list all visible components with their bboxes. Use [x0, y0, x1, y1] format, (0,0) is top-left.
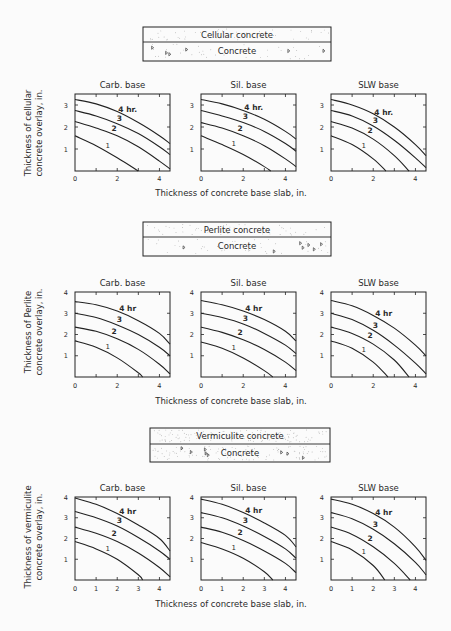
x-tick-label: 0 [199, 382, 203, 390]
curve-label: 3 [117, 516, 122, 525]
fire-rating-curve [75, 327, 170, 374]
y-tick-label: 2 [190, 124, 194, 132]
x-tick-label: 4 [157, 175, 161, 183]
y-tick-label: 1 [190, 556, 194, 564]
curve-label: 3 [243, 314, 248, 323]
curve-label: 2 [367, 534, 372, 543]
legend-bottom-layer-label: Concrete [218, 241, 256, 251]
x-tick-label: 2 [115, 175, 119, 183]
x-tick-label: 0 [329, 175, 333, 183]
y-tick-label: 4 [190, 289, 194, 297]
y-tick-label: 3 [320, 102, 324, 110]
x-tick-label: 0 [73, 585, 77, 593]
y-axis-label: Thickness of cellularconcrete overlay, i… [23, 89, 44, 177]
y-axis-label-line1: Thickness of vermiculite [23, 485, 33, 589]
y-tick-label: 2 [64, 124, 68, 132]
chart-panel: SLW base02412341234 hr [320, 278, 426, 390]
curve-label: 1 [231, 344, 235, 352]
material-legend: Perlite concreteConcrete [143, 222, 331, 256]
y-tick-label: 1 [64, 352, 68, 360]
y-tick-label: 3 [64, 310, 68, 318]
x-tick-label: 4 [157, 585, 161, 593]
curve-label: 3 [373, 321, 378, 330]
curve-label: 2 [111, 124, 116, 133]
y-tick-label: 3 [64, 102, 68, 110]
y-tick-label: 1 [64, 146, 68, 154]
x-tick-label: 4 [413, 382, 417, 390]
curve-label: 1 [105, 343, 109, 351]
legend-bottom-layer-label: Concrete [218, 46, 256, 56]
curve-label: 2 [111, 327, 116, 336]
y-tick-label: 3 [64, 514, 68, 522]
y-tick-label: 1 [320, 352, 324, 360]
y-tick-label: 2 [190, 331, 194, 339]
y-tick-label: 3 [190, 102, 194, 110]
curve-label: 1 [361, 346, 365, 354]
material-legend: Cellular concreteConcrete [143, 27, 331, 61]
x-axis-label: Thickness of concrete base slab, in. [154, 599, 307, 609]
y-tick-label: 2 [190, 535, 194, 543]
fire-rating-curve [331, 542, 385, 580]
curve-label: 4 hr. [374, 108, 393, 117]
fire-rating-curve [75, 498, 170, 551]
fire-rating-curve [201, 527, 296, 573]
y-tick-label: 4 [190, 494, 194, 502]
fire-rating-curve [331, 136, 386, 171]
y-axis-label: Thickness of Perliteconcrete overlay, in… [23, 288, 44, 375]
curve-label: 4 hr [245, 304, 262, 313]
fire-rating-curve [75, 527, 170, 577]
curve-label: 1 [361, 142, 365, 150]
x-axis-label: Thickness of concrete base slab, in. [154, 188, 307, 198]
y-tick-label: 1 [190, 146, 194, 154]
curve-label: 4 hr [119, 304, 136, 313]
y-tick-label: 4 [320, 494, 324, 502]
fire-rating-curve [201, 543, 273, 580]
x-axis-label: Thickness of concrete base slab, in. [154, 396, 307, 406]
curve-label: 4 hr. [244, 103, 263, 112]
curve-label: 2 [367, 126, 372, 135]
chart-panel: SLW base0241231234 hr. [320, 80, 426, 183]
fire-rating-curve [201, 513, 296, 559]
y-tick-label: 2 [64, 331, 68, 339]
curve-label: 4 hr [375, 508, 392, 517]
material-legend: Vermiculite concreteConcrete [150, 428, 330, 462]
curve-label: 2 [237, 124, 242, 133]
y-tick-label: 3 [190, 310, 194, 318]
curve-label: 1 [105, 142, 109, 150]
y-tick-label: 2 [320, 124, 324, 132]
chart-panel: Sil. base02412341234 hr [190, 278, 296, 390]
fire-rating-curve [201, 327, 296, 371]
x-tick-label: 0 [329, 585, 333, 593]
x-tick-label: 4 [283, 382, 287, 390]
x-tick-label: 2 [371, 585, 375, 593]
y-axis-label-line2: concrete overlay, in. [34, 493, 44, 580]
curve-label: 2 [237, 328, 242, 337]
legend-top-layer-label: Vermiculite concrete [196, 431, 283, 441]
x-tick-label: 2 [241, 175, 245, 183]
fire-rating-curve [201, 342, 273, 377]
curve-label: 3 [243, 516, 248, 525]
y-axis-label-line1: Thickness of cellular [23, 89, 33, 177]
fire-rating-curve [201, 313, 296, 353]
panel-title: SLW base [358, 278, 399, 288]
x-tick-label: 2 [371, 382, 375, 390]
curve-label: 2 [111, 529, 116, 538]
y-tick-label: 4 [64, 494, 68, 502]
x-tick-label: 0 [329, 382, 333, 390]
y-tick-label: 1 [64, 556, 68, 564]
y-axis-label-line2: concrete overlay, in. [34, 288, 44, 375]
x-tick-label: 0 [73, 382, 77, 390]
legend-top-layer-label: Cellular concrete [201, 30, 273, 40]
panel-title: Sil. base [231, 278, 267, 288]
panel-title: Sil. base [231, 80, 267, 90]
x-tick-label: 1 [350, 585, 354, 593]
x-tick-label: 2 [241, 585, 245, 593]
curve-label: 3 [373, 116, 378, 125]
fire-rating-curve [331, 313, 426, 374]
curve-label: 3 [243, 112, 248, 121]
y-axis-label-line1: Thickness of Perlite [23, 291, 33, 374]
panel-title: Carb. base [100, 483, 146, 493]
chart-panel: SLW base0123412341234 hr [320, 483, 426, 593]
curve-label: 1 [231, 140, 235, 148]
curve-label: 3 [373, 520, 378, 529]
